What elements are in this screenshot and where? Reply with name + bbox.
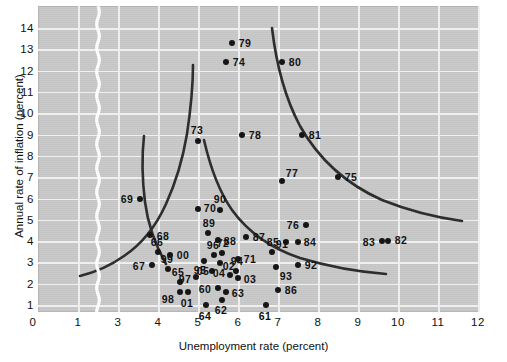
phillips-curve-1960s [80,65,193,276]
data-point-label: 92 [305,259,317,271]
data-point-label: 62 [215,304,227,316]
data-point [295,239,301,245]
data-point-label: 73 [191,124,203,136]
data-point-label: 01 [181,297,193,309]
data-point-label: 98 [162,293,174,305]
data-point [269,249,275,255]
x-tick-label: 5 [183,316,213,328]
data-point [177,289,183,295]
data-point-label: 86 [285,284,297,296]
data-point-label: 97 [179,273,191,285]
x-tick-label: 8 [303,316,333,328]
chart-figure: 6162636465666768697071727374757677787980… [0,0,507,362]
y-tick-label: 1 [2,299,34,311]
phillips-curve-mid [204,140,386,274]
data-point [201,258,207,264]
x-tick-label: 4 [143,316,173,328]
data-point [275,287,281,293]
data-point-label: 05 [197,265,209,277]
data-point [195,138,201,144]
data-point [195,206,201,212]
x-tick-label: 9 [343,316,373,328]
data-point [205,230,211,236]
data-point [279,178,285,184]
x-tick-label: 11 [423,316,453,328]
data-point-label: 88 [224,235,236,247]
data-point [215,285,221,291]
data-point [149,262,155,268]
data-point-label: 71 [244,253,256,265]
data-point-label: 74 [233,56,245,68]
phillips-curves [38,6,480,312]
x-axis-tick-labels: 013456789101112 [0,316,507,332]
data-point-label: 83 [363,236,375,248]
y-axis-title: Annual rate of inflation (percent) [13,51,25,261]
x-tick-label: 1 [63,316,93,328]
x-tick-label: 10 [383,316,413,328]
data-point-label: 81 [309,129,321,141]
data-point-label: 75 [345,171,357,183]
data-point [299,132,305,138]
data-point-label: 89 [203,217,215,229]
data-point-label: 60 [199,283,211,295]
x-tick-label: 3 [103,316,133,328]
data-point [219,297,225,303]
x-tick-label: 0 [18,316,48,328]
data-point-label: 63 [232,287,244,299]
data-point [203,302,209,308]
data-point-label: 80 [289,56,301,68]
data-point-label: 87 [253,231,265,243]
data-point-label: 69 [121,193,133,205]
data-point [229,40,235,46]
data-point [379,238,385,244]
data-point [223,289,229,295]
data-point [235,275,241,281]
data-point [165,266,171,272]
data-point [227,272,233,278]
data-point-label: 96 [207,239,219,251]
y-tick-label: 2 [2,278,34,290]
data-point-label: 84 [304,236,316,248]
data-point [279,59,285,65]
data-point [217,207,223,213]
data-point [263,302,269,308]
data-point [167,252,173,258]
y-tick-label: 14 [2,22,34,34]
data-point [223,59,229,65]
data-point [243,234,249,240]
data-point [217,260,223,266]
data-point [273,264,279,270]
plot-area: 6162636465666768697071727374757677787980… [38,6,480,312]
data-point [335,174,341,180]
data-point [295,262,301,268]
data-point-label: 82 [395,234,407,246]
data-point-label: 93 [280,270,292,282]
data-point [211,252,217,258]
data-point-label: 90 [214,193,226,205]
data-point-label: 79 [239,37,251,49]
data-point-label: 67 [133,260,145,272]
data-point-label: 00 [177,249,189,261]
data-point [185,289,191,295]
data-point-label: 77 [286,167,298,179]
data-point-label: 91 [276,238,288,250]
data-point-label: 04 [213,267,225,279]
data-point [239,132,245,138]
x-axis-title: Unemployment rate (percent) [0,340,507,352]
data-point [147,232,153,238]
data-point-label: 78 [249,129,261,141]
data-point [219,250,225,256]
x-tick-label: 12 [463,316,493,328]
data-point [137,196,143,202]
data-point-label: 68 [157,230,169,242]
x-tick-label: 7 [263,316,293,328]
x-tick-label: 6 [223,316,253,328]
data-point-label: 76 [287,219,299,231]
data-point [303,222,309,228]
data-point-label: 03 [244,273,256,285]
data-point [385,238,391,244]
